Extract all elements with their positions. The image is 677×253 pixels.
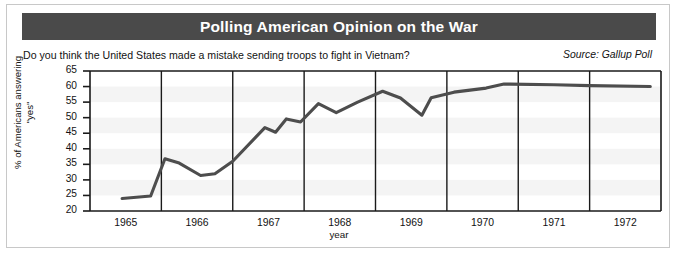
x-tick-label: 1969: [385, 217, 437, 228]
x-tick-label: 1966: [171, 217, 223, 228]
y-tick-label: 65: [51, 64, 77, 75]
plot-svg: [7, 5, 671, 249]
y-tick-label: 25: [51, 188, 77, 199]
y-tick-label: 40: [51, 142, 77, 153]
figure-container: Polling American Opinion on the War Do y…: [6, 4, 670, 248]
x-tick-label: 1971: [528, 217, 580, 228]
x-tick-label: 1965: [100, 217, 152, 228]
y-tick-label: 60: [51, 80, 77, 91]
y-tick-label: 20: [51, 204, 77, 215]
y-tick-label: 55: [51, 95, 77, 106]
y-tick-label: 30: [51, 173, 77, 184]
y-tick-label: 35: [51, 157, 77, 168]
x-tick-label: 1970: [457, 217, 509, 228]
x-axis-label: year: [7, 229, 671, 240]
y-axis-label: % of Americans answering "yes": [12, 53, 35, 173]
y-tick-label: 45: [51, 126, 77, 137]
x-tick-label: 1967: [242, 217, 294, 228]
y-tick-label: 50: [51, 111, 77, 122]
x-tick-label: 1972: [599, 217, 651, 228]
line-chart: % of Americans answering "yes" year 2025…: [7, 5, 671, 249]
x-tick-label: 1968: [314, 217, 366, 228]
